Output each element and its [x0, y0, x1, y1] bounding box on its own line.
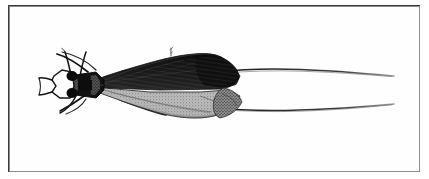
caudal-filament-lower: [214, 104, 394, 112]
labial-palps: [39, 78, 52, 95]
head-vertex-dark: [77, 74, 92, 97]
caudal-filament-upper: [218, 69, 394, 77]
forewing-dark: [90, 54, 240, 90]
antenna-upper: [57, 52, 96, 72]
abdomen-tip: [213, 88, 242, 118]
wing-seta-mark: [170, 47, 173, 56]
insect-illustration: [0, 0, 429, 179]
screenshot-root: insect-specimen-dorsal-view: [0, 0, 429, 179]
compound-eye-left: [67, 71, 78, 81]
midleg: [80, 52, 86, 76]
compound-eye-right: [67, 88, 78, 98]
